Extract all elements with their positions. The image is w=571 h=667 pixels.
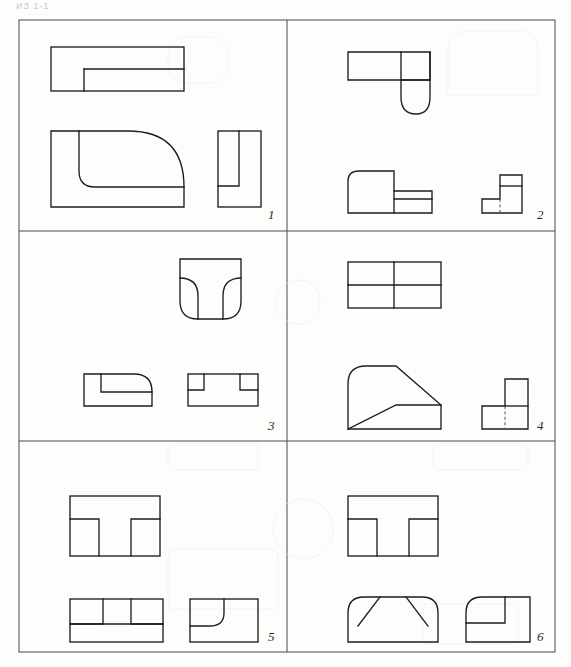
panel-3-side-view (188, 374, 258, 406)
panel-number-2: 2 (537, 207, 544, 222)
panel-number-5: 5 (268, 629, 275, 644)
panel-4-front-view (348, 366, 441, 429)
panel-4: 4 (348, 262, 544, 433)
panel-number-6: 6 (537, 629, 544, 644)
panel-4-side-view (482, 379, 528, 429)
panel-1: 1 (51, 47, 275, 222)
panel-6-front-view (348, 597, 438, 642)
panel-2-top-view (348, 52, 430, 114)
panel-5: 5 (70, 496, 275, 644)
panel-2: 2 (348, 52, 544, 222)
panel-6: 6 (348, 496, 544, 644)
panel-1-side-view (218, 131, 261, 207)
panel-5-front-view (70, 599, 163, 642)
panel-6-top-view (348, 496, 438, 556)
panel-2-side-view (482, 175, 522, 213)
panel-grid: 1 (18, 19, 556, 653)
panel-number-1: 1 (268, 207, 275, 222)
ghost-showthrough (168, 31, 538, 644)
panel-3-front-view (84, 374, 152, 406)
panel-3: 3 (84, 259, 275, 433)
panel-5-side-view (190, 599, 258, 642)
panel-1-top-view (51, 47, 184, 91)
panel-number-4: 4 (537, 418, 544, 433)
panel-5-top-view (70, 496, 160, 556)
panel-1-front-view (51, 131, 184, 207)
panel-2-front-view (348, 171, 432, 213)
drawing-sheet: ИЗ 1-1 (0, 0, 571, 667)
drawing-canvas: 1 (18, 19, 556, 653)
panel-number-3: 3 (267, 418, 275, 433)
panel-3-top-view (180, 259, 241, 319)
frame-borders (19, 20, 555, 652)
sheet-header-text: ИЗ 1-1 (16, 1, 49, 11)
panel-4-top-view (348, 262, 441, 308)
